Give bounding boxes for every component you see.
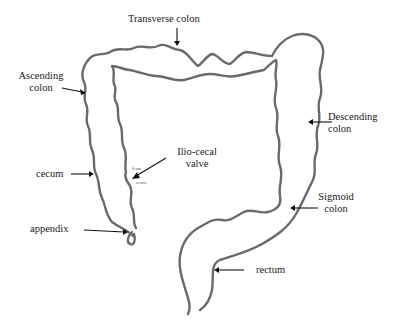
- arrow-appendix: [84, 229, 128, 235]
- label-sigmoid-colon: Sigmoid colon: [314, 191, 358, 215]
- label-descending-colon-line2: colon: [328, 123, 378, 135]
- label-descending-colon-line1: Descending: [328, 111, 378, 123]
- label-ilio-cecal-valve-line1: Ilio-cecal: [168, 146, 226, 158]
- label-ilio-cecal-valve-line2: valve: [168, 158, 226, 170]
- label-rectum: rectum: [256, 264, 285, 276]
- appendix-outline: [128, 232, 135, 244]
- label-cecum: cecum: [36, 168, 63, 180]
- label-sigmoid-colon-line2: colon: [314, 203, 358, 215]
- label-ascending-colon-line1: Ascending: [16, 70, 66, 82]
- label-ascending-colon-line2: colon: [16, 82, 66, 94]
- arrow-rectum: [214, 267, 244, 273]
- label-ilio-cecal-valve: Ilio-cecal valve: [168, 146, 226, 170]
- label-ascending-colon: Ascending colon: [16, 70, 66, 94]
- arrow-cecum: [71, 171, 94, 177]
- valve-mini-label-top: ileum: [132, 166, 142, 171]
- label-descending-colon: Descending colon: [328, 111, 378, 135]
- label-sigmoid-colon-line1: Sigmoid: [314, 191, 358, 203]
- colon-diagram: ileum cecum Transverse colon Ascending c…: [0, 0, 403, 325]
- label-appendix: appendix: [30, 223, 69, 235]
- arrow-transverse-colon: [174, 28, 180, 46]
- valve-mini-label-bottom: cecum: [136, 180, 147, 185]
- label-transverse-colon: Transverse colon: [128, 13, 200, 25]
